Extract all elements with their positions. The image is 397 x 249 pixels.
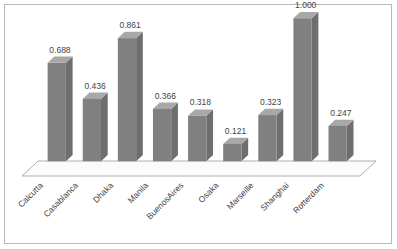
category-label-manila: Manila: [126, 180, 151, 205]
category-label-rotterdam: Rotterdam: [291, 180, 326, 215]
bar-side-face: [312, 12, 319, 161]
category-label-calcutta: Calcutta: [16, 180, 45, 209]
value-label-casablanca: 0.436: [84, 81, 106, 91]
value-label-osaka: 0.121: [225, 126, 247, 136]
chart-container: 0.6880.4360.8610.3660.3180.1210.3231.000…: [0, 0, 397, 249]
category-label-marseille: Marseille: [225, 180, 256, 211]
bar-side-face: [277, 109, 284, 161]
bar-front-face: [83, 99, 101, 161]
category-label-buenosaires: BuenosAires: [144, 180, 185, 221]
bar-front-face: [118, 38, 136, 161]
bar-front-face: [329, 126, 347, 161]
bar-side-face: [101, 93, 108, 162]
bar-osaka: [223, 138, 248, 162]
value-label-buenosaires: 0.318: [190, 97, 212, 107]
bar-front-face: [293, 18, 311, 161]
bar-marseille: [258, 109, 283, 161]
bar-front-face: [188, 116, 206, 161]
value-label-marseille: 0.323: [260, 97, 282, 107]
value-label-rotterdam: 0.247: [330, 108, 352, 118]
bar-buenosaires: [188, 109, 213, 161]
bar-front-face: [223, 144, 241, 161]
bar-front-face: [48, 63, 66, 161]
bar-front-face: [258, 115, 276, 161]
chart-floor: [22, 161, 376, 176]
bar-calcutta: [48, 57, 73, 162]
bar-chart-svg: 0.6880.4360.8610.3660.3180.1210.3231.000…: [0, 0, 397, 249]
bar-side-face: [206, 109, 213, 161]
bar-side-face: [136, 32, 143, 161]
bar-casablanca: [83, 93, 108, 162]
bar-side-face: [171, 103, 178, 162]
plot-area: 0.6880.4360.8610.3660.3180.1210.3231.000…: [0, 0, 397, 249]
bar-dhaka: [118, 32, 143, 161]
bar-front-face: [153, 109, 171, 161]
value-label-dhaka: 0.861: [120, 20, 142, 30]
category-label-shanghai: Shanghai: [258, 180, 291, 213]
bar-side-face: [347, 120, 354, 162]
value-label-calcutta: 0.688: [49, 45, 71, 55]
category-labels-group: CalcuttaCasablancaDhakaManilaBuenosAires…: [16, 180, 326, 221]
bar-shanghai: [293, 12, 318, 161]
bar-side-face: [66, 57, 73, 162]
category-label-dhaka: Dhaka: [91, 180, 116, 205]
category-label-casablanca: Casablanca: [41, 180, 80, 219]
value-label-manila: 0.366: [155, 91, 177, 101]
bar-manila: [153, 103, 178, 162]
floor-plane: [22, 161, 376, 176]
bar-rotterdam: [329, 120, 354, 162]
category-label-osaka: Osaka: [196, 180, 221, 205]
value-label-shanghai: 1.000: [295, 0, 317, 10]
